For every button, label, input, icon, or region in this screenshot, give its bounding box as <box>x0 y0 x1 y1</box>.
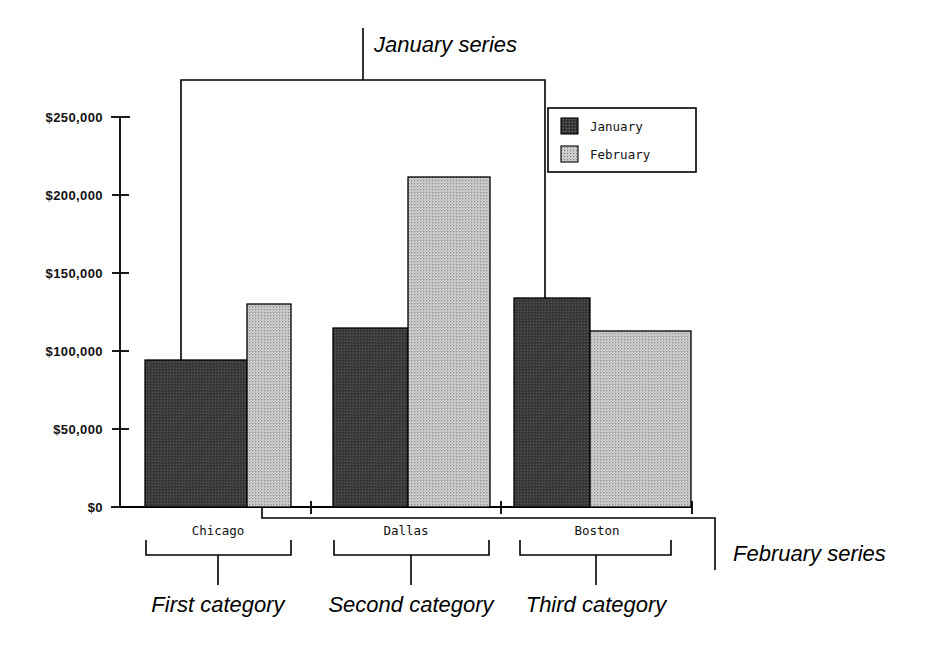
dark-swatch-icon <box>561 118 578 134</box>
y-axis-label-100000: $100,000 <box>46 344 103 359</box>
y-axis-label-50000: $50,000 <box>53 422 103 437</box>
february-series-annotation: February series <box>262 508 886 570</box>
category-labels: Chicago Dallas Boston <box>192 523 620 538</box>
second-category-bracket <box>334 540 489 555</box>
january-series-label: January series <box>373 32 517 57</box>
bar-boston-february <box>590 331 691 507</box>
legend-label-january: January <box>590 119 643 134</box>
first-category-label: First category <box>151 592 286 617</box>
legend: January February <box>548 108 696 172</box>
february-series-label: February series <box>733 541 886 566</box>
third-category-label: Third category <box>526 592 669 617</box>
legend-label-february: February <box>590 147 651 162</box>
third-category-bracket <box>520 540 671 555</box>
second-category-label: Second category <box>328 592 495 617</box>
category-label-chicago: Chicago <box>192 523 245 538</box>
y-axis: $250,000 $200,000 $150,000 $100,000 $50,… <box>46 110 130 515</box>
bar-dallas-february <box>408 177 490 507</box>
bars-group <box>145 177 691 507</box>
y-axis-label-200000: $200,000 <box>46 188 103 203</box>
bar-chicago-january <box>145 360 247 507</box>
chart-canvas: $250,000 $200,000 $150,000 $100,000 $50,… <box>0 0 943 649</box>
category-brackets: First category Second category Third cat… <box>146 540 671 617</box>
bar-dallas-january <box>333 328 408 507</box>
category-label-boston: Boston <box>574 523 619 538</box>
light-swatch-icon <box>561 146 578 162</box>
bar-chart-figure: $250,000 $200,000 $150,000 $100,000 $50,… <box>0 0 943 649</box>
y-axis-label-0: $0 <box>88 500 103 515</box>
first-category-bracket <box>146 540 291 555</box>
february-series-leader <box>262 508 715 570</box>
category-label-dallas: Dallas <box>383 523 428 538</box>
bar-chicago-february <box>247 304 291 507</box>
y-axis-label-150000: $150,000 <box>46 266 103 281</box>
y-axis-label-250000: $250,000 <box>46 110 103 125</box>
bar-boston-january <box>514 298 590 507</box>
